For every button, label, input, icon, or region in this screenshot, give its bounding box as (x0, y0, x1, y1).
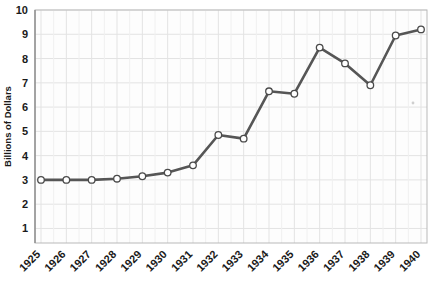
y-axis-title-text: Billions of Dollars (2, 86, 13, 167)
data-point-marker (367, 82, 374, 89)
data-point-marker (88, 177, 95, 184)
y-tick-label: 4 (22, 150, 29, 162)
y-tick-label: 6 (22, 101, 28, 113)
y-tick-label: 9 (22, 28, 28, 40)
data-point-marker (342, 60, 349, 67)
data-point-marker (38, 177, 45, 184)
data-point-marker (215, 132, 222, 139)
data-point-marker (392, 32, 399, 39)
line-chart: 12345678910 1925192619271928192919301931… (0, 0, 431, 296)
y-tick-label: 3 (22, 174, 28, 186)
data-point-marker (266, 88, 273, 95)
data-point-marker (190, 162, 197, 169)
data-point-marker (164, 169, 171, 176)
y-tick-label: 2 (22, 198, 28, 210)
y-tick-label: 10 (16, 4, 28, 16)
y-tick-label: 8 (22, 53, 28, 65)
y-tick-label: 1 (22, 222, 28, 234)
chart-container: 12345678910 1925192619271928192919301931… (0, 0, 431, 296)
data-point-marker (418, 26, 425, 33)
data-point-marker (139, 173, 146, 180)
data-point-marker (316, 44, 323, 51)
data-point-marker (63, 177, 70, 184)
y-tick-label: 5 (22, 125, 28, 137)
image-speck (412, 102, 415, 105)
data-point-marker (240, 135, 247, 142)
data-point-marker (114, 175, 121, 182)
data-point-marker (291, 90, 298, 97)
y-axis-title: Billions of Dollars (2, 86, 13, 167)
y-tick-label: 7 (22, 77, 28, 89)
